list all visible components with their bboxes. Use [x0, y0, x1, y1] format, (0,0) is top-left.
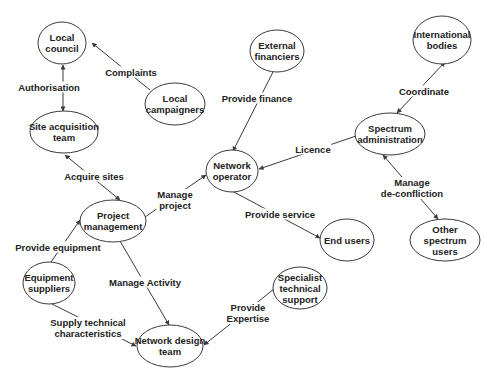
node-spectrum-administration-label: Spectrum administration: [357, 123, 422, 145]
node-network-design-team-label: Network design team: [135, 335, 206, 357]
stakeholder-diagram: Local councilLocal campaignersSite acqui…: [0, 0, 497, 385]
edge-licence-label: Licence: [294, 144, 331, 155]
edge-provide-finance-arrow: [233, 72, 273, 151]
edge-supply-technical-characteristics-label: Supply technical characteristics: [49, 317, 127, 339]
edge-complaints-label: Complaints: [104, 67, 158, 78]
node-specialist-technical-support-label: Specialist technical support: [278, 272, 322, 305]
edge-coordinate-label: Coordinate: [398, 86, 450, 97]
edge-provide-finance-label: Provide finance: [221, 93, 294, 104]
node-local-council-label: Local council: [45, 32, 78, 54]
node-local-campaigners-label: Local campaigners: [146, 93, 205, 115]
node-international-bodies-label: International bodies: [413, 29, 470, 51]
edge-manage-project-label: Manage project: [156, 189, 193, 211]
node-site-acquisition-team-label: Site acquisition team: [29, 121, 99, 143]
edge-provide-equipment-label: Provide equipment: [14, 242, 102, 253]
node-project-management-label: Project management: [84, 210, 143, 232]
node-external-financiers-label: External financiers: [255, 40, 300, 62]
node-other-spectrum-users-label: Other spectrum users: [419, 224, 471, 257]
node-equipment-suppliers-label: Equipment suppliers: [24, 272, 73, 294]
edge-provide-service-label: Provide service: [244, 209, 316, 220]
edge-manage-deconfliction-label: Manage de-confliction: [380, 177, 444, 199]
edge-provide-expertise-label: Provide Expertise: [226, 302, 271, 324]
edge-manage-activity-label: Manage Activity: [108, 277, 182, 288]
node-network-operator-label: Network operator: [213, 160, 252, 182]
edge-acquire-sites-label: Acquire sites: [63, 171, 125, 182]
edge-authorisation-label: Authorisation: [17, 82, 81, 93]
node-end-users-label: End users: [324, 235, 370, 246]
